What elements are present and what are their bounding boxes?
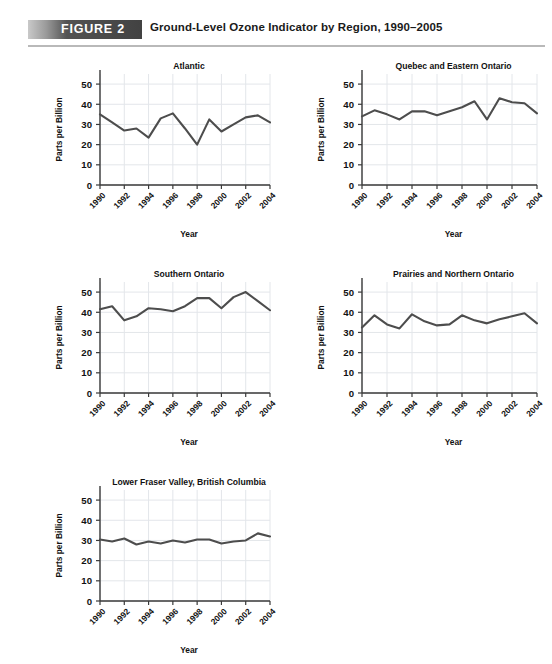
data-series-line <box>100 533 270 544</box>
x-axis-tick-label: 2002 <box>233 606 253 626</box>
y-axis-tick-label: 20 <box>81 139 92 150</box>
x-axis-tick-label: 1998 <box>184 190 204 210</box>
y-axis-tick-label: 0 <box>349 180 354 191</box>
chart-title: Southern Ontario <box>154 269 225 279</box>
x-axis-tick-label: 1994 <box>136 398 156 418</box>
data-series-line <box>100 292 270 320</box>
y-axis-tick-label: 20 <box>81 555 92 566</box>
y-axis-tick-label: 30 <box>81 535 92 546</box>
x-axis-tick-label: 1994 <box>399 190 419 210</box>
x-axis-title: Year <box>445 437 463 447</box>
header-divider <box>28 45 545 47</box>
x-axis-tick-label: 1992 <box>111 190 131 210</box>
x-axis-tick-label: 2000 <box>209 606 229 626</box>
y-axis-title: Parts per Billion <box>54 513 64 577</box>
x-axis-tick-label: 1998 <box>184 606 204 626</box>
x-axis-tick-label: 2004 <box>257 398 277 418</box>
chart-card-atlantic: Atlantic01020304050Parts per Billion1990… <box>28 56 278 247</box>
chart-card-southern-ontario: Southern Ontario01020304050Parts per Bil… <box>28 264 278 455</box>
x-axis-title: Year <box>180 645 198 655</box>
x-axis-tick-label: 2000 <box>209 398 229 418</box>
y-axis-tick-label: 50 <box>81 79 92 90</box>
y-axis-title: Parts per Billion <box>54 305 64 369</box>
x-axis-title: Year <box>180 437 198 447</box>
x-axis-tick-label: 1996 <box>160 606 180 626</box>
y-axis-title: Parts per Billion <box>316 305 326 369</box>
y-axis-tick-label: 40 <box>81 515 92 526</box>
x-axis-tick-label: 2000 <box>474 190 494 210</box>
chart-title: Quebec and Eastern Ontario <box>395 61 511 71</box>
y-axis-tick-label: 20 <box>81 347 92 358</box>
y-axis-tick-label: 50 <box>343 287 354 298</box>
x-axis-tick-label: 1992 <box>111 398 131 418</box>
x-axis-tick-label: 2002 <box>233 398 253 418</box>
x-axis-tick-label: 2002 <box>499 398 519 418</box>
x-axis-tick-label: 2004 <box>257 606 277 626</box>
y-axis-tick-label: 50 <box>343 79 354 90</box>
chart-card-prairies-northern-ontario: Prairies and Northern Ontario01020304050… <box>290 264 545 455</box>
y-axis-tick-label: 10 <box>343 367 354 378</box>
chart-title: Prairies and Northern Ontario <box>393 269 514 279</box>
y-axis-tick-label: 30 <box>81 327 92 338</box>
data-series-line <box>362 98 537 119</box>
x-axis-tick-label: 2004 <box>257 190 277 210</box>
x-axis-tick-label: 1990 <box>349 398 369 418</box>
x-axis-tick-label: 2000 <box>474 398 494 418</box>
y-axis-tick-label: 10 <box>81 575 92 586</box>
x-axis-tick-label: 1990 <box>87 398 107 418</box>
x-axis-tick-label: 2002 <box>499 190 519 210</box>
x-axis-tick-label: 1994 <box>136 606 156 626</box>
x-axis-tick-label: 1990 <box>87 190 107 210</box>
y-axis-tick-label: 50 <box>81 495 92 506</box>
y-axis-title: Parts per Billion <box>54 97 64 161</box>
data-series-line <box>100 113 270 144</box>
x-axis-tick-label: 2004 <box>524 398 544 418</box>
x-axis-tick-label: 2002 <box>233 190 253 210</box>
y-axis-tick-label: 20 <box>343 139 354 150</box>
x-axis-tick-label: 1990 <box>349 190 369 210</box>
x-axis-tick-label: 1998 <box>184 398 204 418</box>
x-axis-tick-label: 1992 <box>374 398 394 418</box>
y-axis-tick-label: 10 <box>81 159 92 170</box>
y-axis-tick-label: 0 <box>87 180 92 191</box>
x-axis-tick-label: 1998 <box>449 190 469 210</box>
chart-card-quebec-eastern-ontario: Quebec and Eastern Ontario01020304050Par… <box>290 56 545 247</box>
x-axis-tick-label: 1998 <box>449 398 469 418</box>
y-axis-tick-label: 10 <box>81 367 92 378</box>
x-axis-tick-label: 2000 <box>209 190 229 210</box>
x-axis-tick-label: 1992 <box>374 190 394 210</box>
y-axis-tick-label: 0 <box>349 388 354 399</box>
chart-title: Lower Fraser Valley, British Columbia <box>112 477 266 487</box>
y-axis-tick-label: 30 <box>81 119 92 130</box>
y-axis-title: Parts per Billion <box>316 97 326 161</box>
y-axis-tick-label: 40 <box>81 99 92 110</box>
figure-number-badge: FIGURE 2 <box>28 20 142 39</box>
x-axis-tick-label: 1990 <box>87 606 107 626</box>
x-axis-tick-label: 1992 <box>111 606 131 626</box>
figure-header: FIGURE 2 Ground-Level Ozone Indicator by… <box>0 0 552 44</box>
x-axis-tick-label: 1994 <box>136 190 156 210</box>
data-series-line <box>362 313 537 328</box>
x-axis-tick-label: 1994 <box>399 398 419 418</box>
y-axis-tick-label: 30 <box>343 119 354 130</box>
y-axis-tick-label: 30 <box>343 327 354 338</box>
figure-number-label: FIGURE 2 <box>28 20 142 39</box>
y-axis-tick-label: 50 <box>81 287 92 298</box>
y-axis-tick-label: 40 <box>343 307 354 318</box>
x-axis-tick-label: 1996 <box>160 190 180 210</box>
x-axis-tick-label: 2004 <box>524 190 544 210</box>
y-axis-tick-label: 20 <box>343 347 354 358</box>
y-axis-tick-label: 40 <box>81 307 92 318</box>
chart-card-lower-fraser-valley: Lower Fraser Valley, British Columbia010… <box>28 472 278 663</box>
y-axis-tick-label: 0 <box>87 596 92 607</box>
x-axis-tick-label: 1996 <box>424 398 444 418</box>
x-axis-title: Year <box>180 229 198 239</box>
y-axis-tick-label: 0 <box>87 388 92 399</box>
x-axis-title: Year <box>445 229 463 239</box>
y-axis-tick-label: 10 <box>343 159 354 170</box>
x-axis-tick-label: 1996 <box>160 398 180 418</box>
figure-title: Ground-Level Ozone Indicator by Region, … <box>150 21 442 33</box>
x-axis-tick-label: 1996 <box>424 190 444 210</box>
chart-title: Atlantic <box>173 61 205 71</box>
y-axis-tick-label: 40 <box>343 99 354 110</box>
